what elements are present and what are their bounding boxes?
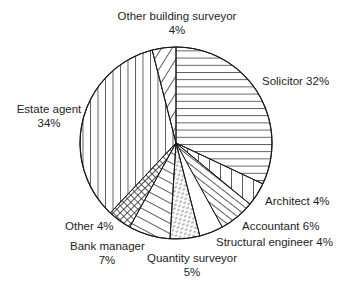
label-other: Other 4% (65, 219, 114, 233)
pie-slices (80, 47, 272, 239)
label-bank-manager: Bank manager 7% (70, 239, 144, 267)
label-other-building-surveyor-name: Other building surveyor (110, 9, 244, 23)
label-other-building-surveyor: Other building surveyor 4% (110, 9, 244, 37)
label-solicitor: Solicitor 32% (262, 74, 329, 88)
label-estate-agent-name: Estate agent (14, 102, 84, 116)
label-quantity-surveyor-name: Quantity surveyor (146, 251, 238, 265)
label-accountant: Accountant 6% (242, 219, 319, 233)
label-structural-engineer: Structural engineer 4% (216, 235, 333, 249)
label-quantity-surveyor-pct: 5% (146, 265, 238, 279)
label-estate-agent-pct: 34% (14, 116, 84, 130)
label-bank-manager-pct: 7% (70, 253, 144, 267)
label-estate-agent: Estate agent 34% (14, 102, 84, 130)
label-quantity-surveyor: Quantity surveyor 5% (146, 251, 238, 279)
label-bank-manager-name: Bank manager (70, 239, 144, 253)
label-architect: Architect 4% (265, 194, 330, 208)
label-other-building-surveyor-pct: 4% (110, 23, 244, 37)
